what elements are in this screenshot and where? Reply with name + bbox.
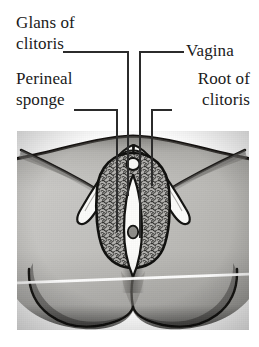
label-glans-of-clitoris: Glans of clitoris — [16, 12, 75, 54]
label-perineal-sponge: Perineal sponge — [16, 68, 73, 110]
label-root-of-clitoris: Root of clitoris — [198, 68, 250, 110]
figure-artwork — [17, 131, 249, 330]
label-line-1: Perineal — [16, 68, 73, 89]
label-line-1: Vagina — [186, 40, 234, 61]
label-line-2: clitoris — [16, 33, 75, 54]
label-line-1: Root of — [198, 68, 250, 89]
anatomical-illustration — [17, 131, 249, 330]
label-line-2: clitoris — [198, 89, 250, 110]
label-line-1: Glans of — [16, 12, 75, 33]
figure-page: Glans of clitoris Perineal sponge Vagina… — [0, 0, 259, 347]
label-line-2: sponge — [16, 89, 73, 110]
label-vagina: Vagina — [186, 40, 234, 61]
scan-vignette — [17, 131, 249, 330]
